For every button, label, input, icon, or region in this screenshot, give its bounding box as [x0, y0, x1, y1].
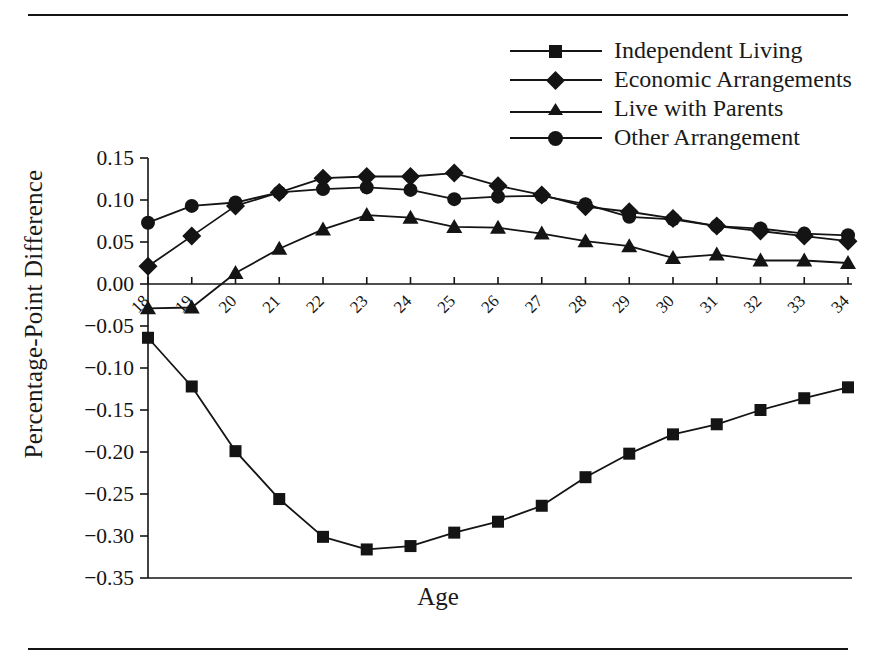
series-independent-living	[142, 332, 854, 556]
data-point	[755, 404, 767, 416]
legend-label: Other Arrangement	[604, 124, 800, 151]
svg-text:−0.30: −0.30	[84, 524, 134, 548]
data-point	[186, 380, 198, 392]
svg-text:31: 31	[696, 291, 721, 316]
svg-text:−0.10: −0.10	[84, 356, 134, 380]
data-point	[271, 241, 287, 255]
data-point	[796, 252, 812, 266]
svg-text:0.00: 0.00	[96, 272, 134, 296]
legend-item-live-with-parents: Live with Parents	[508, 94, 852, 123]
triangle-marker-icon	[508, 99, 604, 119]
svg-text:29: 29	[609, 291, 634, 316]
data-point	[316, 182, 330, 196]
data-point	[142, 332, 154, 344]
legend-item-other-arrangement: Other Arrangement	[508, 123, 852, 152]
data-point	[710, 219, 724, 233]
data-point	[185, 199, 199, 213]
data-point	[535, 189, 549, 203]
data-point	[580, 471, 592, 483]
data-point	[622, 210, 636, 224]
data-point	[754, 222, 768, 236]
svg-text:20: 20	[215, 291, 240, 316]
data-point	[229, 196, 243, 210]
legend-item-independent-living: Independent Living	[508, 36, 852, 65]
chart-legend: Independent Living Economic Arrangements…	[508, 36, 852, 152]
svg-text:23: 23	[346, 291, 371, 316]
data-point	[711, 418, 723, 430]
svg-text:32: 32	[740, 291, 765, 316]
y-axis-title: Percentage-Point Difference	[20, 104, 48, 524]
data-point	[623, 448, 635, 460]
data-point	[666, 212, 680, 226]
data-point	[579, 197, 593, 211]
x-axis-title: Age	[0, 583, 876, 611]
data-point	[317, 531, 329, 543]
svg-text:−0.05: −0.05	[84, 314, 134, 338]
data-point	[360, 180, 374, 194]
svg-text:24: 24	[390, 291, 416, 317]
svg-text:25: 25	[434, 291, 459, 316]
svg-text:−0.20: −0.20	[84, 440, 134, 464]
data-point	[273, 493, 285, 505]
data-point	[447, 192, 461, 206]
svg-text:0.15: 0.15	[96, 146, 134, 170]
data-point	[230, 445, 242, 457]
data-point	[445, 164, 464, 183]
data-point	[709, 247, 725, 261]
data-point	[405, 540, 417, 552]
data-point	[491, 190, 505, 204]
svg-text:21: 21	[259, 291, 284, 316]
svg-text:0.10: 0.10	[96, 188, 134, 212]
data-point	[182, 227, 201, 246]
legend-label: Independent Living	[604, 37, 803, 64]
svg-text:34: 34	[827, 291, 853, 317]
data-point	[798, 392, 810, 404]
svg-text:22: 22	[302, 291, 327, 316]
diamond-marker-icon	[508, 70, 604, 90]
legend-item-economic-arrangements: Economic Arrangements	[508, 65, 852, 94]
svg-text:28: 28	[565, 291, 590, 316]
circle-marker-icon	[508, 128, 604, 148]
legend-label: Economic Arrangements	[604, 66, 852, 93]
data-point	[141, 216, 155, 230]
data-point	[667, 428, 679, 440]
data-point	[492, 516, 504, 528]
data-point	[228, 265, 244, 279]
data-point	[797, 227, 811, 241]
data-point	[359, 207, 375, 221]
svg-text:−0.25: −0.25	[84, 482, 134, 506]
data-point	[361, 543, 373, 555]
svg-text:−0.15: −0.15	[84, 398, 134, 422]
svg-text:27: 27	[521, 291, 547, 317]
data-point	[448, 527, 460, 539]
svg-text:26: 26	[477, 291, 502, 316]
data-point	[404, 183, 418, 197]
data-point	[841, 228, 855, 242]
svg-text:0.05: 0.05	[96, 230, 134, 254]
svg-text:33: 33	[784, 291, 809, 316]
chart-figure: 0.150.100.050.00−0.05−0.10−0.15−0.20−0.2…	[0, 0, 876, 670]
data-point	[272, 185, 286, 199]
square-marker-icon	[508, 41, 604, 61]
data-point	[139, 257, 158, 276]
legend-label: Live with Parents	[604, 95, 783, 122]
svg-text:30: 30	[652, 291, 677, 316]
data-point	[536, 500, 548, 512]
data-point	[842, 381, 854, 393]
